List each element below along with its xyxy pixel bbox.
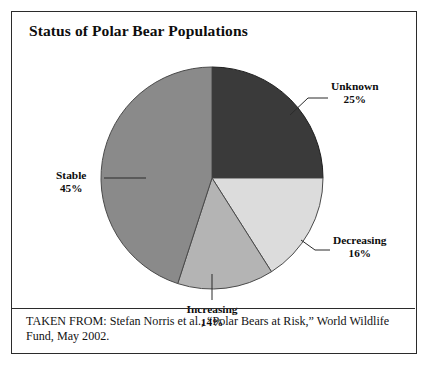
leader-line-decreasing bbox=[301, 240, 330, 250]
pie-label-decreasing: Decreasing 16% bbox=[333, 234, 387, 261]
pie-label-decreasing-name: Decreasing bbox=[333, 234, 387, 246]
caption-divider bbox=[12, 308, 415, 309]
pie-label-unknown-name: Unknown bbox=[331, 80, 379, 92]
pie-chart-svg bbox=[12, 12, 415, 308]
pie-slice-unknown[interactable] bbox=[212, 67, 323, 178]
pie-label-decreasing-value: 16% bbox=[333, 247, 387, 260]
pie-label-stable-value: 45% bbox=[56, 182, 86, 195]
pie-label-stable-name: Stable bbox=[56, 169, 86, 181]
figure-frame: Status of Polar Bear Populations Unknown… bbox=[11, 11, 417, 354]
pie-label-unknown: Unknown 25% bbox=[331, 80, 379, 107]
pie-label-stable: Stable 45% bbox=[56, 169, 86, 196]
pie-label-unknown-value: 25% bbox=[331, 93, 379, 106]
source-caption: TAKEN FROM: Stefan Norris et al., “Polar… bbox=[26, 314, 408, 345]
pie-chart: Unknown 25% Decreasing 16% Increasing 14… bbox=[12, 12, 415, 308]
